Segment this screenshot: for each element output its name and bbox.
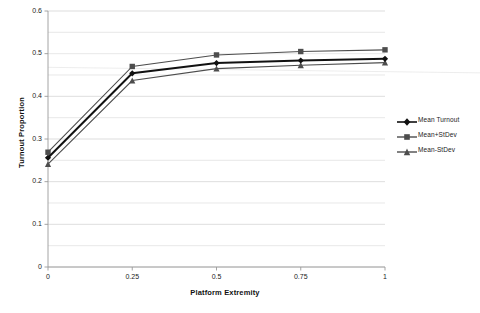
legend-item-mean-turnout: Mean Turnout [396,112,480,127]
x-axis-tick-label: 1 [365,273,405,280]
turnout-line-chart: Turnout Proportion Platform Extremity 00… [0,0,480,313]
y-axis-tick-label: 0.6 [14,7,42,14]
x-axis-tick-label: 0 [28,273,68,280]
legend-label-mean-minus-stdev: Mean-StDev [418,146,455,153]
y-axis-tick-label: 0 [14,263,42,270]
x-axis-tick-label: 0.25 [112,273,152,280]
y-axis-tick-label: 0.3 [14,135,42,142]
legend-triangle-marker-icon [396,144,418,156]
chart-legend: Mean Turnout Mean+StDev Mean-StDev [396,112,480,157]
x-axis-title: Platform Extremity [55,288,395,297]
y-axis-tick-label: 0.2 [14,177,42,184]
legend-label-mean-turnout: Mean Turnout [418,116,459,123]
legend-item-mean-plus-stdev: Mean+StDev [396,127,480,142]
legend-item-mean-minus-stdev: Mean-StDev [396,142,480,157]
legend-label-mean-plus-stdev: Mean+StDev [418,131,457,138]
y-axis-tick-label: 0.4 [14,92,42,99]
y-axis-tick-label: 0.5 [14,49,42,56]
x-axis-tick-label: 0.75 [281,273,321,280]
x-axis-tick-label: 0.5 [197,273,237,280]
y-axis-tick-label: 0.1 [14,220,42,227]
legend-square-marker-icon [396,129,418,141]
legend-diamond-marker-icon [396,114,418,126]
